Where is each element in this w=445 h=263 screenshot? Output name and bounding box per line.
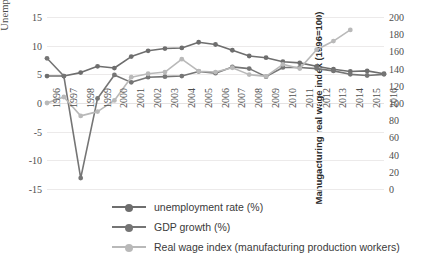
chart-legend: unemployment rate (%)GDP growth (%)Real …: [112, 197, 432, 257]
data-point: [365, 68, 370, 73]
legend-item-label: Real wage index (manufacturing productio…: [154, 241, 400, 253]
legend-marker-icon: [112, 201, 146, 213]
x-axis-tick-label: 2009: [270, 88, 281, 108]
data-point: [264, 74, 269, 79]
x-axis-tick-label: 2001: [135, 88, 146, 108]
x-axis-tick-label: 2000: [118, 88, 129, 108]
legend-marker-icon: [112, 241, 146, 253]
left-axis-tick-label: 10: [32, 40, 42, 51]
data-point: [213, 42, 218, 47]
data-point: [247, 66, 252, 71]
left-axis-tick-label: -15: [29, 184, 42, 195]
data-point: [196, 69, 201, 74]
chart-figure: Unemploment Rate and GDP growth rate Man…: [0, 0, 445, 263]
data-point: [314, 47, 319, 52]
right-axis-tick-label: 40: [389, 149, 399, 160]
data-point: [78, 70, 83, 75]
data-point: [264, 55, 269, 60]
legend-item[interactable]: Real wage index (manufacturing productio…: [112, 237, 432, 257]
x-axis-tick-label: 2004: [186, 88, 197, 108]
data-point: [61, 95, 66, 100]
data-point: [230, 65, 235, 70]
data-point: [297, 66, 302, 71]
data-point: [314, 66, 319, 71]
left-axis-title: Unemploment Rate and GDP growth rate: [0, 0, 15, 32]
left-axis-tick-label: 15: [32, 12, 42, 23]
x-axis-tick-label: 2012: [321, 88, 332, 108]
data-point: [95, 64, 100, 69]
x-axis-tick-label: 2014: [354, 88, 365, 108]
x-axis-tick-label: 1996: [51, 88, 62, 108]
data-point: [382, 72, 387, 77]
x-axis-tick-label: 2016: [388, 88, 399, 108]
legend-marker-icon: [112, 221, 146, 233]
x-axis-tick-label: 2002: [152, 88, 163, 108]
x-axis-tick-label: 2006: [220, 88, 231, 108]
x-axis-tick-label: 2010: [287, 88, 298, 108]
x-axis-tick-label: 2008: [253, 88, 264, 108]
data-point: [281, 62, 286, 67]
left-axis-tick-label: -10: [29, 155, 42, 166]
data-point: [179, 46, 184, 51]
data-point: [230, 48, 235, 53]
data-point: [163, 46, 168, 51]
data-point: [61, 74, 66, 79]
data-point: [297, 60, 302, 65]
x-axis-tick-label: 2007: [236, 88, 247, 108]
x-axis-tick-label: 1999: [102, 88, 113, 108]
data-point: [129, 75, 134, 80]
right-axis-tick-label: 0: [389, 184, 394, 195]
data-point: [196, 40, 201, 45]
data-point: [78, 176, 83, 181]
x-axis-tick-label: 1998: [85, 88, 96, 108]
legend-item-label: unemployment rate (%): [154, 201, 263, 213]
data-point: [163, 70, 168, 75]
right-axis-tick-label: 20: [389, 166, 399, 177]
right-axis-tick-label: 60: [389, 132, 399, 143]
data-point: [146, 48, 151, 53]
data-point: [179, 57, 184, 62]
data-point: [348, 72, 353, 77]
data-point: [331, 68, 336, 73]
right-axis-tick-label: 140: [389, 63, 404, 74]
legend-item[interactable]: unemployment rate (%): [112, 197, 432, 217]
data-point: [112, 73, 117, 78]
gridline: [47, 189, 384, 190]
data-point: [45, 101, 50, 106]
right-axis-tick-label: 200: [389, 12, 404, 23]
left-axis-tick-label: 0: [37, 98, 42, 109]
right-axis-tick-label: 180: [389, 29, 404, 40]
data-point: [213, 70, 218, 75]
x-axis-tick-labels: 1996199719981999200020012002200320042005…: [47, 108, 384, 168]
x-axis-tick-label: 2005: [203, 88, 214, 108]
left-axis-tick-label: -5: [34, 126, 42, 137]
data-point: [45, 74, 50, 79]
data-point: [247, 72, 252, 77]
data-point: [365, 73, 370, 78]
data-point: [163, 74, 168, 79]
data-point: [348, 28, 353, 33]
data-point: [247, 54, 252, 59]
data-point: [112, 66, 117, 71]
data-point: [45, 56, 50, 61]
legend-item-label: GDP growth (%): [154, 221, 230, 233]
x-axis-tick-label: 2003: [169, 88, 180, 108]
x-axis-tick-label: 2013: [337, 88, 348, 108]
legend-item[interactable]: GDP growth (%): [112, 217, 432, 237]
x-axis-tick-label: 2011: [304, 88, 315, 108]
right-axis-tick-label: 80: [389, 115, 399, 126]
data-point: [179, 74, 184, 79]
x-axis-tick-label: 2015: [371, 88, 382, 108]
x-axis-tick-label: 1997: [68, 88, 79, 108]
data-point: [129, 54, 134, 59]
data-point: [146, 71, 151, 76]
data-point: [331, 39, 336, 44]
right-axis-tick-label: 160: [389, 46, 404, 57]
left-axis-tick-label: 5: [37, 69, 42, 80]
